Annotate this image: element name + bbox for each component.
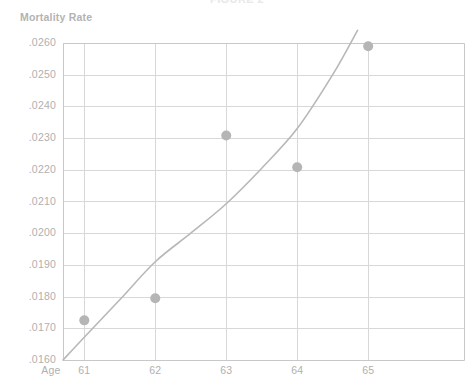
gridlines-horizontal [63,44,464,361]
plot-area [0,0,474,392]
data-point-marker [292,162,302,172]
x-tick-label: 62 [137,364,173,376]
data-point-marker [363,41,373,51]
x-tick-label: 61 [66,364,102,376]
fitted-curve [63,30,358,360]
data-point-marker [79,315,89,325]
fitted-curve-path [63,30,358,360]
x-tick-label: 64 [279,364,315,376]
data-point-marker [150,293,160,303]
x-tick-label: 65 [350,364,386,376]
mortality-rate-chart: FIGURE 2 Mortality Rate .0260.0250.0240.… [0,0,474,392]
data-point-marker [221,131,231,141]
x-tick-label: 63 [208,364,244,376]
